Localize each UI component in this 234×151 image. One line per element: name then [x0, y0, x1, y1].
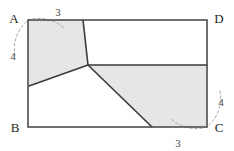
figure-canvas: A D B C 3 4 4 3: [0, 0, 234, 151]
measure-label-c-bottom: 3: [175, 137, 181, 149]
vertex-label-a: A: [9, 11, 19, 26]
measure-label-a-top: 3: [55, 6, 61, 18]
unshaded-region-upper-right: [83, 20, 207, 65]
measure-label-a-left: 4: [10, 50, 16, 62]
measure-label-c-right: 4: [218, 96, 224, 108]
geometry-figure: A D B C 3 4 4 3: [0, 0, 234, 151]
vertex-label-b: B: [11, 120, 20, 135]
vertex-label-c: C: [215, 120, 224, 135]
vertex-label-d: D: [214, 11, 223, 26]
